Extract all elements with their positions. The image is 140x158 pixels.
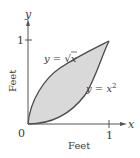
y-tick-label: 1 — [17, 34, 24, 47]
y-axis-label: y — [24, 8, 32, 21]
square-curve-label: y = x2 — [85, 82, 117, 94]
x-axis-title: Feet — [68, 140, 90, 151]
x-axis-arrow-icon — [120, 122, 127, 126]
region-diagram: y x 1 1 0 Feet Feet y = √x y = x2 — [0, 0, 140, 158]
y-axis-title: Feet — [7, 70, 18, 92]
x-tick-label: 1 — [106, 129, 113, 142]
sqrt-curve-label: y = √x — [43, 53, 77, 64]
x-axis-label: x — [128, 118, 135, 131]
origin-label: 0 — [18, 127, 25, 140]
